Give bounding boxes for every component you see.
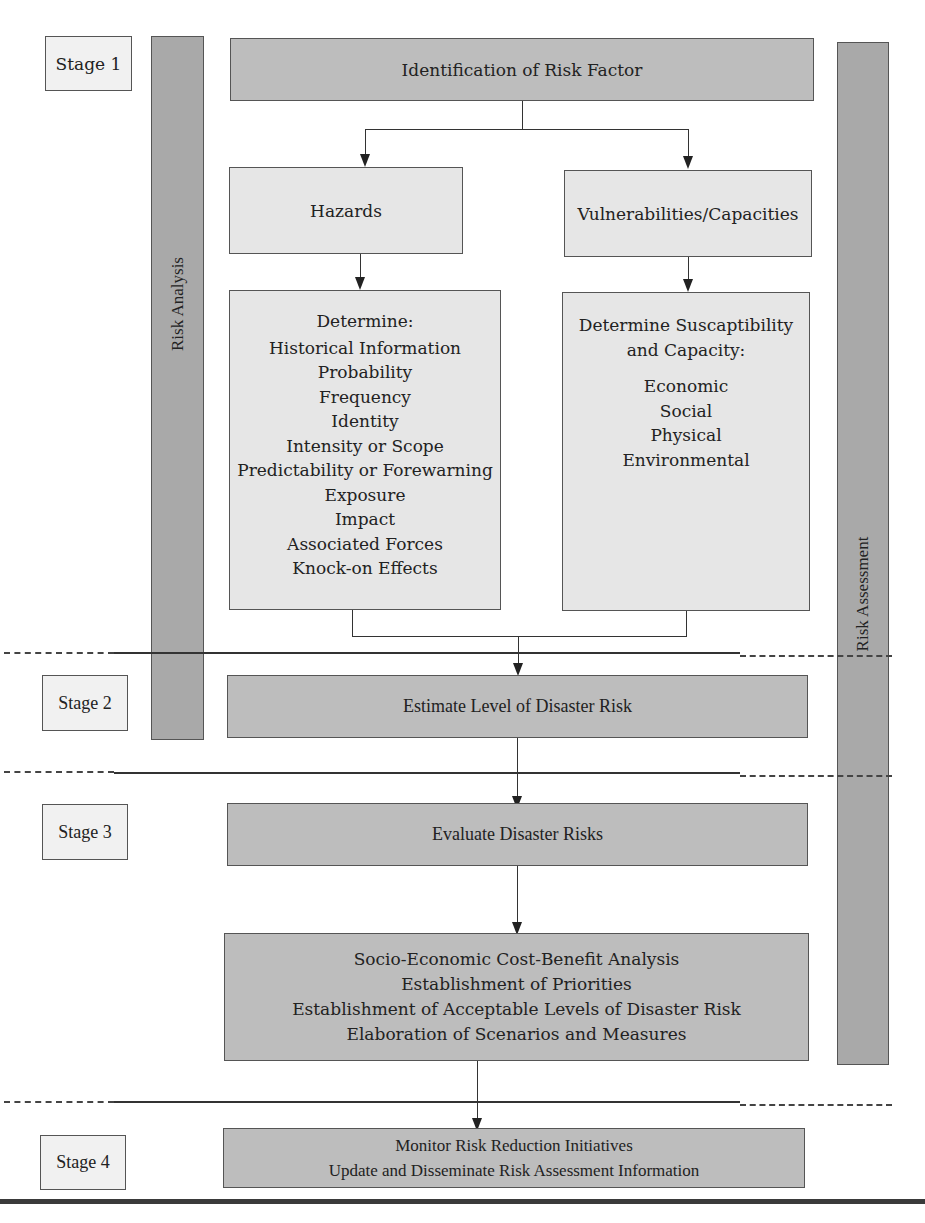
connector-split-horizontal xyxy=(365,129,688,130)
analysis-item: Establishment of Acceptable Levels of Di… xyxy=(292,997,741,1022)
evaluate-box: Evaluate Disaster Risks xyxy=(227,803,808,866)
risk-assessment-bar: Risk Assessment xyxy=(837,42,889,1065)
separator-2-dash-left xyxy=(4,771,114,773)
stage-4-label: Stage 4 xyxy=(40,1135,126,1190)
analysis-list-box: Socio-Economic Cost-Benefit Analysis Est… xyxy=(224,933,809,1061)
hazards-detail-item: Probability xyxy=(230,360,500,385)
risk-analysis-label: Risk Analysis xyxy=(168,257,188,351)
connector-merge-down xyxy=(518,636,519,666)
separator-3-solid xyxy=(114,1101,740,1103)
monitor-box: Monitor Risk Reduction Initiatives Updat… xyxy=(223,1128,805,1188)
connector-merge-horizontal xyxy=(352,636,687,637)
hazards-detail-item: Knock-on Effects xyxy=(230,556,500,581)
arrow-to-vulnerabilities-detail-icon xyxy=(683,279,693,292)
identification-text: Identification of Risk Factor xyxy=(402,60,643,80)
monitor-line: Monitor Risk Reduction Initiatives xyxy=(395,1133,633,1158)
hazards-box: Hazards xyxy=(229,167,463,254)
connector-hazards-merge xyxy=(352,610,353,636)
estimate-box: Estimate Level of Disaster Risk xyxy=(227,675,808,738)
vulnerabilities-detail-item: Economic xyxy=(563,374,809,399)
hazards-detail-item: Historical Information xyxy=(230,336,500,361)
stage-3-text: Stage 3 xyxy=(58,822,112,843)
vulnerabilities-text: Vulnerabilities/Capacities xyxy=(578,204,799,224)
analysis-item: Socio-Economic Cost-Benefit Analysis xyxy=(354,947,680,972)
hazards-detail-item: Predictability or Forewarning xyxy=(230,458,500,483)
vulnerabilities-box: Vulnerabilities/Capacities xyxy=(564,170,812,257)
hazards-text: Hazards xyxy=(310,201,382,221)
connector-estimate-to-evaluate xyxy=(517,738,518,800)
arrow-to-hazards-detail-icon xyxy=(355,277,365,290)
hazards-detail-item: Intensity or Scope xyxy=(230,434,500,459)
estimate-text: Estimate Level of Disaster Risk xyxy=(403,696,632,717)
stage-4-text: Stage 4 xyxy=(56,1152,110,1173)
risk-analysis-bar: Risk Analysis xyxy=(151,36,204,740)
connector-vulnerabilities-merge xyxy=(686,611,687,637)
identification-box: Identification of Risk Factor xyxy=(230,38,814,101)
hazards-detail-item: Associated Forces xyxy=(230,532,500,557)
separator-3-dash-right xyxy=(740,1104,892,1106)
arrow-to-hazards-icon xyxy=(360,154,370,167)
stage-1-text: Stage 1 xyxy=(56,54,122,74)
connector-vulnerabilities-to-detail xyxy=(688,257,689,281)
hazards-detail-item: Exposure xyxy=(230,483,500,508)
separator-1-dash-left xyxy=(4,652,114,654)
stage-2-label: Stage 2 xyxy=(42,675,128,731)
monitor-line: Update and Disseminate Risk Assessment I… xyxy=(329,1158,700,1183)
evaluate-text: Evaluate Disaster Risks xyxy=(432,824,603,845)
hazards-detail-item: Identity xyxy=(230,409,500,434)
separator-2-solid xyxy=(114,772,740,774)
connector-evaluate-to-analysis xyxy=(517,866,518,926)
vulnerabilities-detail-item: Environmental xyxy=(563,448,809,473)
hazards-detail-item: Frequency xyxy=(230,385,500,410)
hazards-detail-heading: Determine: xyxy=(230,309,500,334)
vulnerabilities-detail-item: Physical xyxy=(563,423,809,448)
connector-identification-down xyxy=(522,101,523,130)
vulnerabilities-detail-heading: and Capacity: xyxy=(563,338,809,363)
separator-3-dash-left xyxy=(4,1101,114,1103)
stage-2-text: Stage 2 xyxy=(58,693,112,714)
hazards-detail-item: Impact xyxy=(230,507,500,532)
bottom-rule xyxy=(0,1199,925,1204)
stage-1-label: Stage 1 xyxy=(45,36,132,91)
connector-to-vulnerabilities xyxy=(688,129,689,157)
stage-3-label: Stage 3 xyxy=(42,804,128,860)
hazards-detail-box: Determine: Historical Information Probab… xyxy=(229,290,501,610)
vulnerabilities-detail-item: Social xyxy=(563,399,809,424)
risk-assessment-label: Risk Assessment xyxy=(853,537,873,652)
analysis-item: Elaboration of Scenarios and Measures xyxy=(347,1022,687,1047)
separator-2-dash-right xyxy=(740,775,892,777)
separator-1-solid xyxy=(114,652,740,654)
connector-to-hazards xyxy=(365,129,366,155)
separator-1-dash-right xyxy=(740,655,892,657)
vulnerabilities-detail-box: Determine Suscaptibility and Capacity: E… xyxy=(562,292,810,611)
vulnerabilities-detail-heading: Determine Suscaptibility xyxy=(563,313,809,338)
analysis-item: Establishment of Priorities xyxy=(401,972,632,997)
arrow-to-vulnerabilities-icon xyxy=(683,156,693,169)
